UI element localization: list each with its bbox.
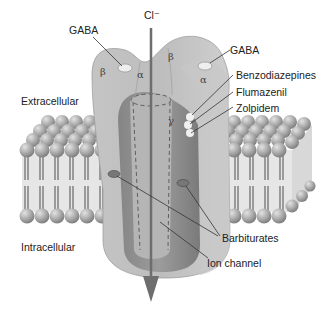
receptor-body	[92, 36, 230, 278]
gaba-label-left: GABA	[69, 25, 98, 36]
chloride-ion-label: Cl⁻	[144, 10, 160, 21]
barbiturate-site-right	[177, 180, 189, 187]
diagram-graphics	[0, 0, 336, 310]
extracellular-label: Extracellular	[21, 96, 79, 107]
barbiturates-label: Barbiturates	[222, 233, 279, 244]
ion-channel-label: Ion channel	[207, 258, 261, 269]
gaba-site-left	[118, 64, 132, 72]
zolpidem-label: Zolpidem	[236, 103, 279, 114]
subunit-beta-left: β	[100, 67, 106, 77]
gaba-label-right: GABA	[230, 45, 259, 56]
gaba-receptor-diagram: Cl⁻ GABA GABA Extracellular Benzodiazepi…	[0, 0, 336, 310]
subunit-beta-right: β	[168, 52, 174, 62]
intracellular-label: Intracellular	[21, 242, 75, 253]
subunit-alpha-left: α	[137, 70, 144, 80]
gaba-site-right	[198, 62, 212, 70]
benzodiazepines-label: Benzodiazepines	[236, 70, 316, 81]
subunit-alpha-right: α	[200, 75, 207, 85]
subunit-gamma: γ	[168, 116, 174, 126]
flumazenil-label: Flumazenil	[236, 87, 287, 98]
